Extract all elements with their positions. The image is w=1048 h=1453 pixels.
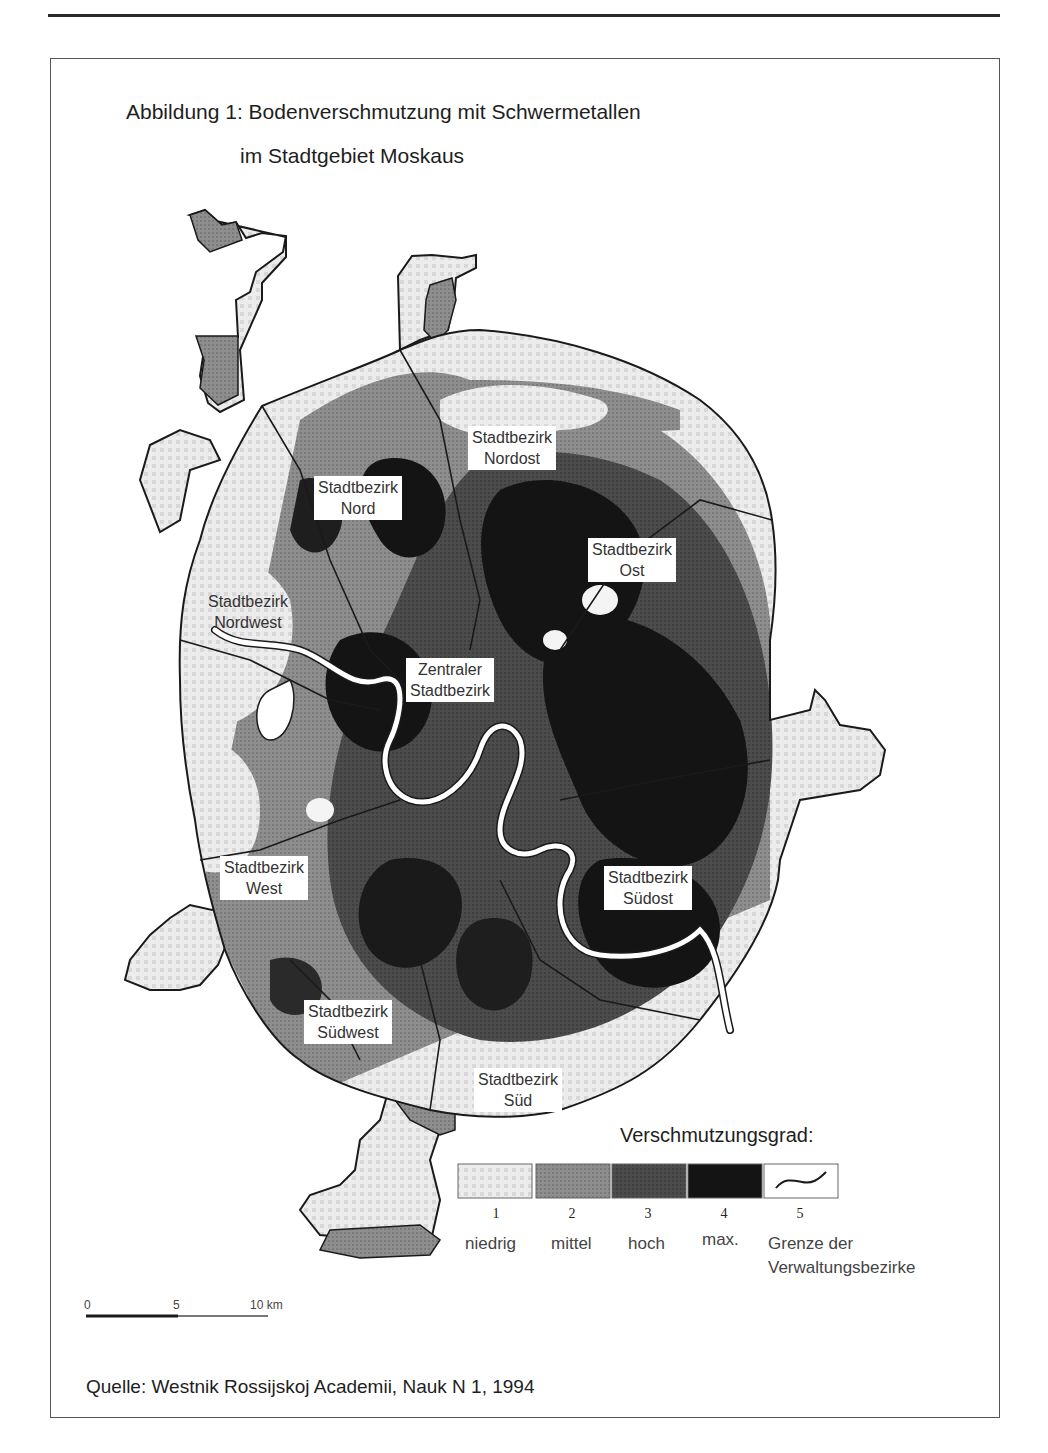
scale-tick-5: 5 [173, 1298, 180, 1312]
legend-label-1: niedrig [465, 1234, 516, 1254]
legend-number-2: 2 [536, 1206, 608, 1222]
district-label-nord: Stadtbezirk Nord [314, 476, 402, 520]
district-label-suedost: Stadtbezirk Südost [604, 866, 692, 910]
legend-label-5-line1: Grenze der [768, 1234, 853, 1254]
district-label-suedwest: Stadtbezirk Südwest [304, 1000, 392, 1044]
legend-swatch-2 [536, 1164, 610, 1198]
legend-number-1: 1 [460, 1206, 532, 1222]
legend-swatch-1 [458, 1164, 532, 1198]
district-label-west: Stadtbezirk West [220, 856, 308, 900]
legend-label-5-line2: Verwaltungsbezirke [768, 1258, 915, 1278]
legend-swatch-4 [688, 1164, 762, 1198]
legend-number-3: 3 [612, 1206, 684, 1222]
legend-label-2: mittel [551, 1234, 592, 1254]
legend-label-3: hoch [628, 1234, 665, 1254]
district-label-sued: Stadtbezirk Süd [474, 1068, 562, 1112]
scale-tick-10km: 10 km [250, 1298, 283, 1312]
legend-label-4: max. [702, 1230, 739, 1250]
district-label-nordost: Stadtbezirk Nordost [468, 426, 556, 470]
moscow-pollution-map [0, 0, 1048, 1453]
legend-swatch-3 [612, 1164, 686, 1198]
scale-tick-0: 0 [84, 1298, 91, 1312]
district-label-nordwest: Stadtbezirk Nordwest [204, 590, 292, 634]
district-label-ost: Stadtbezirk Ost [588, 538, 676, 582]
legend-number-5: 5 [764, 1206, 836, 1222]
source-citation: Quelle: Westnik Rossijskoj Academii, Nau… [86, 1376, 534, 1398]
legend-title: Verschmutzungsgrad: [620, 1124, 813, 1147]
district-label-zentral: Zentraler Stadtbezirk [406, 658, 494, 702]
legend-number-4: 4 [688, 1206, 760, 1222]
